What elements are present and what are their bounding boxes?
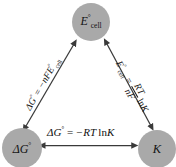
node-ecell-label: E°cell [80, 14, 101, 30]
node-ecell: E°cell [72, 3, 110, 41]
node-delta-g-label: ΔG° [13, 142, 32, 155]
edge-label-delta-g-equals-minus-rt-ln-k: ΔG° = −RT lnK [47, 126, 114, 138]
node-equilibrium-constant: K [138, 130, 176, 167]
relationship-diagram: E°cell ΔG° K ΔG° = −RT lnK ΔG° = −nFE°ce… [0, 0, 176, 167]
node-delta-g: ΔG° [2, 128, 42, 167]
node-equilibrium-constant-label: K [153, 143, 161, 156]
